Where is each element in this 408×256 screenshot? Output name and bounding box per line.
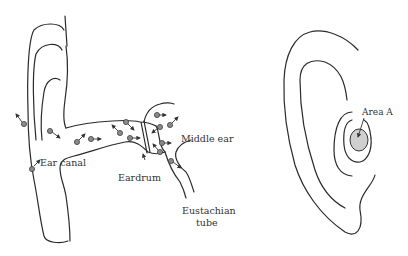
label-eustachian-line2: tube <box>196 218 218 228</box>
label-eustachian-line1: Eustachian <box>182 206 236 216</box>
label-area-a: Area A <box>362 108 393 117</box>
ear-canal <box>66 103 194 198</box>
area-a-region <box>350 118 368 151</box>
label-eardrum: Eardrum <box>118 173 161 183</box>
label-middle-ear: Middle ear <box>181 134 233 144</box>
label-ear-canal: Ear canal <box>40 158 86 168</box>
